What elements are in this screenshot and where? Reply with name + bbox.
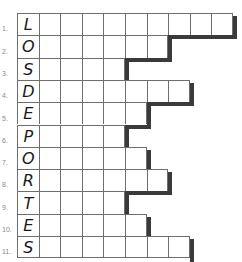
answer-cell[interactable] (39, 191, 61, 213)
answer-cell[interactable] (147, 169, 169, 191)
answer-cell[interactable] (39, 58, 61, 80)
given-letter-cell: O (17, 147, 39, 169)
grid-row-6: P (17, 125, 125, 147)
answer-cell[interactable] (60, 236, 82, 258)
given-letter-cell: D (17, 80, 39, 102)
answer-cell[interactable] (168, 80, 190, 102)
row-number: 2. (2, 48, 8, 55)
answer-cell[interactable] (60, 169, 82, 191)
answer-cell[interactable] (125, 35, 147, 57)
answer-cell[interactable] (125, 13, 147, 35)
answer-cell[interactable] (168, 13, 190, 35)
grid-row-4: D (17, 80, 190, 102)
answer-cell[interactable] (103, 147, 125, 169)
answer-cell[interactable] (60, 35, 82, 57)
row-number: 7. (2, 159, 8, 166)
grid-row-5: E (17, 102, 147, 124)
answer-cell[interactable] (103, 169, 125, 191)
answer-cell[interactable] (60, 125, 82, 147)
answer-cell[interactable] (60, 13, 82, 35)
answer-cell[interactable] (39, 35, 61, 57)
answer-cell[interactable] (103, 125, 125, 147)
row-number: 11. (2, 248, 11, 255)
row-number: 9. (2, 204, 8, 211)
row-number: 4. (2, 92, 8, 99)
answer-cell[interactable] (60, 58, 82, 80)
answer-cell[interactable] (125, 80, 147, 102)
answer-cell[interactable] (39, 102, 61, 124)
answer-cell[interactable] (82, 58, 104, 80)
answer-cell[interactable] (82, 169, 104, 191)
answer-cell[interactable] (147, 13, 169, 35)
cell-letter: P (18, 126, 39, 147)
answer-cell[interactable] (82, 236, 104, 258)
answer-cell[interactable] (82, 35, 104, 57)
answer-cell[interactable] (60, 214, 82, 236)
answer-cell[interactable] (125, 214, 147, 236)
answer-cell[interactable] (103, 102, 125, 124)
row-shadow (168, 35, 237, 39)
answer-cell[interactable] (60, 102, 82, 124)
row-number: 8. (2, 181, 8, 188)
answer-cell[interactable] (39, 147, 61, 169)
answer-cell[interactable] (82, 13, 104, 35)
row-shadow (190, 239, 194, 262)
grid-row-10: E (17, 214, 147, 236)
answer-cell[interactable] (60, 147, 82, 169)
row-shadow (147, 102, 194, 106)
answer-cell[interactable] (125, 169, 147, 191)
answer-cell[interactable] (82, 214, 104, 236)
cell-letter: S (18, 237, 39, 257)
cell-letter: L (18, 14, 39, 35)
answer-cell[interactable] (60, 191, 82, 213)
answer-cell[interactable] (60, 80, 82, 102)
answer-cell[interactable] (147, 35, 169, 57)
answer-cell[interactable] (103, 35, 125, 57)
answer-cell[interactable] (39, 214, 61, 236)
answer-cell[interactable] (103, 80, 125, 102)
answer-cell[interactable] (39, 169, 61, 191)
answer-cell[interactable] (82, 125, 104, 147)
answer-cell[interactable] (125, 147, 147, 169)
given-letter-cell: S (17, 58, 39, 80)
answer-cell[interactable] (82, 191, 104, 213)
answer-cell[interactable] (147, 236, 169, 258)
answer-cell[interactable] (39, 80, 61, 102)
row-shadow (125, 58, 172, 62)
row-shadow (125, 191, 172, 195)
answer-cell[interactable] (82, 102, 104, 124)
answer-cell[interactable] (82, 147, 104, 169)
answer-cell[interactable] (39, 13, 61, 35)
cell-letter: T (18, 192, 39, 213)
row-number: 5. (2, 115, 8, 122)
cell-letter: E (18, 103, 39, 124)
answer-cell[interactable] (39, 125, 61, 147)
cell-letter: O (18, 148, 39, 169)
given-letter-cell: S (17, 236, 39, 258)
row-number: 3. (2, 70, 8, 77)
answer-cell[interactable] (39, 236, 61, 258)
answer-cell[interactable] (168, 236, 190, 258)
cell-letter: S (18, 59, 39, 80)
answer-cell[interactable] (190, 13, 212, 35)
given-letter-cell: E (17, 214, 39, 236)
answer-cell[interactable] (125, 236, 147, 258)
answer-cell[interactable] (103, 13, 125, 35)
answer-cell[interactable] (103, 58, 125, 80)
grid-row-3: S (17, 58, 125, 80)
answer-cell[interactable] (103, 214, 125, 236)
given-letter-cell: T (17, 191, 39, 213)
answer-cell[interactable] (211, 13, 233, 35)
answer-cell[interactable] (125, 102, 147, 124)
row-number: 1. (2, 25, 8, 32)
answer-cell[interactable] (103, 236, 125, 258)
given-letter-cell: E (17, 102, 39, 124)
answer-cell[interactable] (103, 191, 125, 213)
grid-row-9: T (17, 191, 125, 213)
answer-cell[interactable] (82, 80, 104, 102)
cell-letter: O (18, 36, 39, 57)
given-letter-cell: O (17, 35, 39, 57)
answer-cell[interactable] (147, 80, 169, 102)
grid-row-1: L (17, 13, 233, 35)
grid-row-8: R (17, 169, 168, 191)
